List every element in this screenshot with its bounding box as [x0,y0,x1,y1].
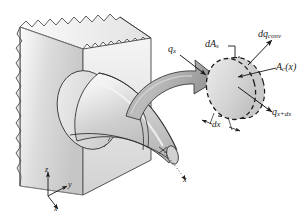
label-cross-section-argument: (x) [285,61,296,72]
label-convection-subscript: conv [268,32,281,39]
label-convection: dqconv [258,29,281,40]
label-heat-in: qx [168,44,176,55]
label-heat-out-subscript: x+dx [277,110,291,117]
cone-axis-label-x: x [183,176,187,184]
differential-element [199,52,271,126]
axis-label-y: y [68,181,72,189]
label-convection-symbol: dq [258,28,268,39]
label-thickness: dx [212,120,221,129]
dq-conv-arrow [248,40,272,65]
label-surface-area-symbol: dA [205,38,216,49]
figure-root: qx dAs dqconv Ac(x) qx+dx dx z y x x [0,0,308,221]
axis-label-z: z [45,166,48,174]
label-heat-out: qx+dx [272,107,291,118]
label-surface-area-subscript: s [216,42,219,49]
dx-dim-arrow-right [229,127,240,131]
dA-s-leader [228,46,235,58]
label-heat-in-subscript: x [173,47,176,54]
label-surface-area: dAs [205,39,219,50]
label-cross-section: Ac(x) [276,62,296,73]
axis-label-x: x [54,205,58,213]
